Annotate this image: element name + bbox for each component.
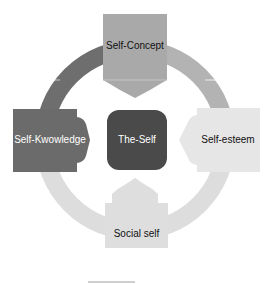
bottom-stub xyxy=(88,281,135,283)
center-label: The-Self xyxy=(107,134,167,145)
node-shape-top xyxy=(103,14,167,98)
node-label-left: Self-Kwowledge xyxy=(10,134,90,145)
node-label-bottom: Social self xyxy=(105,228,168,239)
node-label-right: Self-esteem xyxy=(193,134,263,145)
node-label-top: Self-Concept xyxy=(103,40,167,51)
